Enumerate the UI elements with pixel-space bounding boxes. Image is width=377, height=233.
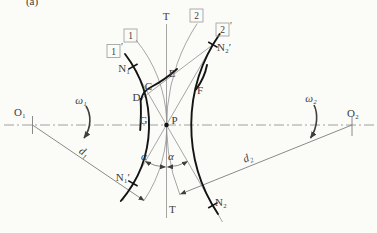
figure-caption: (a) bbox=[26, 0, 39, 8]
n1-label: N₁ bbox=[118, 62, 130, 74]
d1-dimension-line bbox=[33, 125, 145, 201]
omega1-rotation-arrow bbox=[84, 106, 90, 138]
point-g-label: G bbox=[140, 114, 148, 126]
base-circle-1-label-box: 1 ′ bbox=[107, 42, 123, 58]
base-circle-2-label-box: 2 ′ bbox=[216, 21, 232, 37]
point-f-label: F bbox=[197, 84, 203, 96]
omega2-label: ω₂ bbox=[305, 92, 317, 104]
svg-text:1: 1 bbox=[128, 31, 133, 41]
svg-text:1: 1 bbox=[111, 47, 116, 57]
point-c-label: C bbox=[145, 80, 152, 92]
tangent-label-bottom: T bbox=[169, 203, 176, 215]
alpha-left-arc bbox=[146, 161, 166, 167]
d2-label: d₂ bbox=[241, 150, 254, 165]
point-p-label: P bbox=[172, 114, 178, 126]
n2-label: N₂ bbox=[215, 196, 227, 208]
pitch-point-dot bbox=[164, 123, 169, 128]
base-circle-2 bbox=[191, 34, 219, 214]
point-d-label: D bbox=[133, 91, 141, 103]
center-o2-label: O₂ bbox=[347, 107, 359, 119]
svg-text:2: 2 bbox=[194, 11, 199, 21]
n1p-label: N₁′ bbox=[116, 171, 130, 183]
alpha-left-label: α bbox=[141, 150, 147, 162]
svg-text:′: ′ bbox=[230, 21, 232, 31]
alpha-right-label: α bbox=[168, 150, 174, 162]
diagram-canvas: (a) 1 1 ′ 2 bbox=[0, 0, 377, 233]
svg-text:′: ′ bbox=[121, 42, 123, 52]
tangent-label-top: T bbox=[163, 10, 170, 22]
n2p-label: N₂′ bbox=[217, 41, 231, 53]
svg-text:2: 2 bbox=[220, 25, 225, 35]
omega1-label: ω₁ bbox=[75, 94, 87, 106]
point-e-label: E bbox=[169, 67, 176, 79]
d2-dimension-line bbox=[181, 125, 353, 194]
omega2-rotation-arrow bbox=[311, 105, 317, 138]
pitch-circle-1-label-box: 1 bbox=[124, 29, 137, 42]
center-o1-label: O₁ bbox=[14, 106, 26, 118]
gear-meshing-diagram: (a) 1 1 ′ 2 bbox=[0, 0, 377, 233]
pitch-circle-2-label-box: 2 bbox=[190, 9, 203, 22]
